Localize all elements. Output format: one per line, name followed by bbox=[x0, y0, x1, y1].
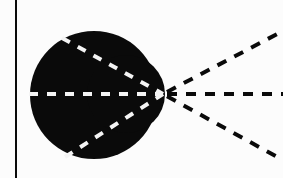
ray-diagram bbox=[0, 0, 283, 178]
